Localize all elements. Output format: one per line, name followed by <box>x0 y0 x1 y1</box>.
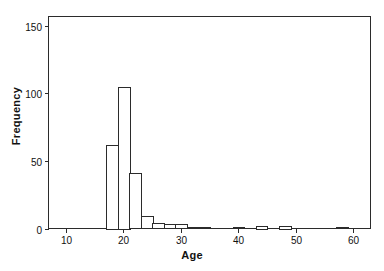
histogram-bar <box>280 227 292 230</box>
histogram-bar <box>337 228 349 229</box>
histogram-bar <box>130 174 142 229</box>
histogram-bar <box>176 225 188 229</box>
y-axis-title-wrapper: Frequency <box>0 0 56 232</box>
histogram-bar <box>142 217 154 229</box>
histogram-bar <box>119 88 131 230</box>
histogram-bar <box>107 146 119 230</box>
y-axis-title: Frequency <box>10 87 22 145</box>
plot-frame-rect <box>49 17 371 229</box>
histogram-bar <box>165 225 177 229</box>
x-tick-label: 10 <box>61 235 72 246</box>
histogram-figure: 102030405060 050100150 Age Frequency <box>0 0 384 271</box>
x-tick-label: 60 <box>348 235 359 246</box>
x-tick-label: 50 <box>291 235 302 246</box>
histogram-bar <box>234 228 245 229</box>
x-tick-label: 30 <box>176 235 187 246</box>
histogram-plot-area <box>0 0 384 271</box>
histogram-bar <box>199 228 211 229</box>
x-axis-title: Age <box>0 249 384 261</box>
histogram-bar <box>257 227 268 230</box>
plot-frame <box>49 17 371 229</box>
histogram-bar <box>153 224 165 229</box>
x-tick-label: 40 <box>233 235 244 246</box>
histogram-bar <box>188 228 200 229</box>
x-tick-label: 20 <box>118 235 129 246</box>
